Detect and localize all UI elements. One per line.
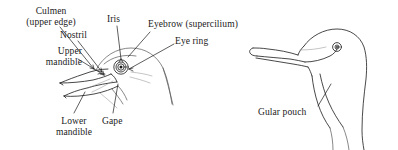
lower-mandible-lower-edge: [64, 86, 118, 96]
lower-mandible-upper-edge: [64, 82, 117, 96]
label-gular-pouch-line1: Gular pouch: [258, 107, 306, 117]
label-lower-mandible-line1: Lower: [61, 116, 86, 126]
label-gular-pouch: Gular pouch: [258, 107, 306, 118]
throat-line-2: [112, 89, 123, 104]
gular-culmen: [253, 48, 298, 55]
label-eye-ring: Eye ring: [175, 36, 208, 47]
label-eye-ring-line1: Eye ring: [175, 36, 208, 46]
arrowhead-iris: [119, 59, 123, 62]
gular-bill-hook: [250, 48, 257, 56]
gular-bill-ridge-line: [300, 47, 326, 50]
leader-lower-mandible: [74, 92, 85, 113]
label-culmen-line1: Culmen: [36, 6, 67, 16]
figure-canvas: Culmen (upper edge) Nostril Iris Eyebrow…: [0, 0, 398, 150]
label-gape-line1: Gape: [102, 116, 122, 126]
leader-iris: [117, 26, 121, 59]
label-iris: Iris: [107, 14, 120, 25]
mouth-interior-line-2: [92, 81, 113, 92]
cheek-feather-line-2: [130, 77, 150, 83]
label-upper-mandible: Upper mandible: [14, 46, 82, 67]
label-eyebrow-supercilium: Eyebrow (supercilium): [148, 19, 238, 30]
leader-eyebrow: [128, 32, 150, 57]
gular-pupil: [336, 46, 338, 48]
label-culmen-line2: (upper edge): [8, 17, 94, 28]
label-eyebrow-line1: Eyebrow (supercilium): [148, 19, 238, 29]
label-upper-mandible-line1: Upper: [58, 46, 82, 56]
cheek-feather-line-1: [131, 72, 152, 76]
gular-pouch-front-edge: [312, 76, 330, 128]
label-culmen: Culmen (upper edge): [8, 6, 94, 27]
gape-corner: [111, 74, 117, 82]
gular-gonys: [308, 67, 312, 76]
gular-pouch-lower-fold: [330, 128, 333, 150]
label-nostril-line1: Nostril: [60, 30, 87, 40]
gular-forehead: [298, 46, 304, 55]
gular-facial-skin: [305, 49, 337, 62]
label-lower-mandible-line2: mandible: [48, 127, 100, 138]
gular-pouch-back-edge: [320, 74, 343, 127]
label-nostril: Nostril: [60, 30, 87, 41]
gular-neck-front-line: [343, 127, 349, 150]
nape-outline: [163, 68, 173, 105]
label-iris-line1: Iris: [107, 14, 120, 24]
label-lower-mandible: Lower mandible: [48, 116, 100, 137]
throat-line-1: [118, 86, 127, 100]
label-gape: Gape: [102, 116, 122, 127]
culmen-upper-edge: [60, 69, 108, 83]
label-upper-mandible-line2: mandible: [14, 57, 82, 68]
pupil: [120, 66, 123, 69]
gular-lower-mandible: [256, 58, 308, 67]
